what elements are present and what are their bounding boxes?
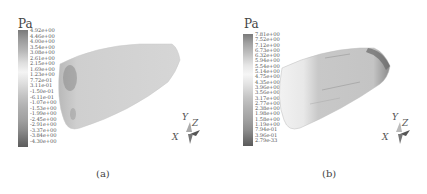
caption-a: (a)	[96, 168, 110, 179]
pressure-contour-body	[230, 0, 427, 194]
panel-a: Pa 4.92e+00 4.46e+00 4.00e+00 3.54e+00 3…	[0, 0, 213, 194]
axis-arrows-icon	[178, 118, 208, 148]
pressure-contour-body	[0, 0, 213, 194]
axis-arrows-icon	[388, 118, 418, 148]
panel-b: Pa 7.81e+00 7.52e+00 7.12e+00 6.73e+00 6…	[230, 0, 427, 194]
caption-b: (b)	[322, 168, 336, 179]
